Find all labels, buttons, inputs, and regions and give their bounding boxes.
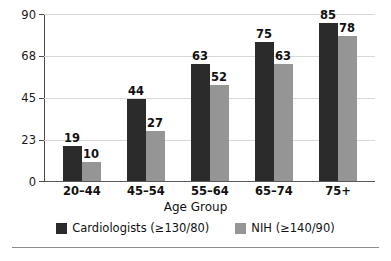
legend-item-cardiologists[interactable]: Cardiologists (≥130/80) xyxy=(56,221,209,235)
x-axis-tick-label: 55–64 xyxy=(180,186,240,198)
bar-nih[interactable] xyxy=(274,64,293,181)
y-axis-tick-label: 23 xyxy=(0,135,36,147)
legend-item-nih[interactable]: NIH (≥140/90) xyxy=(235,221,334,235)
chart-legend: Cardiologists (≥130/80) NIH (≥140/90) xyxy=(0,221,391,235)
axis-baseline xyxy=(44,181,375,182)
bar-value-label: 78 xyxy=(332,23,362,35)
bar-value-label: 19 xyxy=(57,133,87,145)
y-axis-tick-label: 90 xyxy=(0,10,36,22)
bar-cardiologists[interactable] xyxy=(319,23,338,181)
bar-value-label: 52 xyxy=(204,72,234,84)
bar-value-label: 85 xyxy=(313,10,343,22)
x-axis-title: Age Group xyxy=(0,200,391,214)
bar-value-label: 63 xyxy=(185,51,215,63)
x-axis-tick-label: 65–74 xyxy=(244,186,304,198)
x-axis-tick-label: 20–44 xyxy=(52,186,112,198)
bar-cardiologists[interactable] xyxy=(127,99,146,181)
bar-group: 19 10 xyxy=(63,14,101,181)
legend-swatch-icon xyxy=(235,223,246,234)
y-axis-tick-label: 68 xyxy=(0,51,36,63)
footer-divider xyxy=(12,247,379,248)
bar-group: 63 52 xyxy=(191,14,229,181)
bar-chart-figure: 90 68 45 23 0 19 10 44 27 xyxy=(0,0,391,261)
bar-nih[interactable] xyxy=(338,36,357,181)
y-axis-tick-label: 45 xyxy=(0,93,36,105)
bar-value-label: 10 xyxy=(76,149,106,161)
x-axis-tick-label: 75+ xyxy=(308,186,368,198)
bar-value-label: 75 xyxy=(249,29,279,41)
plot-area: 19 10 44 27 63 52 75 63 85 xyxy=(44,14,375,181)
legend-swatch-icon xyxy=(56,223,67,234)
bar-nih[interactable] xyxy=(146,131,165,181)
legend-label: Cardiologists (≥130/80) xyxy=(72,221,209,235)
bar-value-label: 27 xyxy=(140,118,170,130)
y-axis-tick-label: 0 xyxy=(0,177,36,189)
bar-nih[interactable] xyxy=(82,162,101,181)
bar-value-label: 44 xyxy=(121,86,151,98)
bar-group: 44 27 xyxy=(127,14,165,181)
bar-value-label: 63 xyxy=(268,51,298,63)
legend-label: NIH (≥140/90) xyxy=(251,221,334,235)
bar-group: 85 78 xyxy=(319,14,357,181)
x-axis-tick-label: 45–54 xyxy=(116,186,176,198)
bar-nih[interactable] xyxy=(210,85,229,181)
bar-group: 75 63 xyxy=(255,14,293,181)
bar-cardiologists[interactable] xyxy=(255,42,274,181)
